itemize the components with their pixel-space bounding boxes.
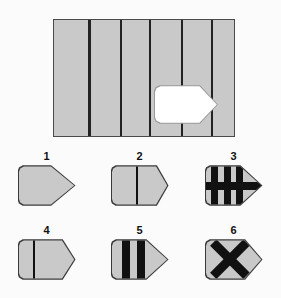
option-6-x-mark <box>210 246 250 274</box>
puzzle-root: 123456 <box>0 0 281 298</box>
option-2-number: 2 <box>93 150 186 163</box>
option-5-number: 5 <box>93 224 186 237</box>
option-5-body <box>112 240 167 278</box>
option-3-body <box>206 166 261 204</box>
option-3-number: 3 <box>187 150 280 163</box>
option-1-shape[interactable] <box>18 165 76 206</box>
option-4[interactable]: 4 <box>0 224 93 298</box>
option-1-body <box>19 166 74 204</box>
panel-stripe-2 <box>120 20 123 136</box>
option-3-horizontal-bar <box>206 182 261 190</box>
option-4-vertical-bar-1 <box>33 240 35 278</box>
option-6-body <box>206 240 261 278</box>
option-1-number: 1 <box>0 150 93 163</box>
option-6[interactable]: 6 <box>187 224 280 298</box>
option-6-shape[interactable] <box>205 239 263 280</box>
option-3[interactable]: 3 <box>187 150 280 224</box>
option-2-body <box>112 166 167 204</box>
option-4-shape[interactable] <box>18 239 76 280</box>
striped-panel <box>53 19 235 137</box>
option-2-shape[interactable] <box>111 165 169 206</box>
cutout-fill <box>155 86 217 123</box>
panel-stripe-1 <box>88 20 91 136</box>
option-4-number: 4 <box>0 224 93 237</box>
option-3-shape[interactable] <box>205 165 263 206</box>
answer-options-grid: 123456 <box>0 150 281 298</box>
option-2-vertical-bar-1 <box>136 166 138 204</box>
panel-stripe-3 <box>149 20 152 136</box>
blank-tag-cutout[interactable] <box>154 85 218 124</box>
option-6-number: 6 <box>187 224 280 237</box>
option-1[interactable]: 1 <box>0 150 93 224</box>
option-2[interactable]: 2 <box>93 150 186 224</box>
option-5-shape[interactable] <box>111 239 169 280</box>
option-5-vertical-bar-2 <box>137 240 145 278</box>
option-5-vertical-bar-1 <box>122 240 130 278</box>
option-5[interactable]: 5 <box>93 224 186 298</box>
